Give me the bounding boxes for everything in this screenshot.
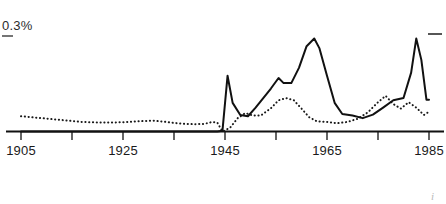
x-axis-label-1925: 1925 — [108, 143, 138, 158]
x-axis-label-1905: 1905 — [6, 143, 36, 158]
x-axis-ticks — [21, 132, 429, 140]
line-chart-plot — [0, 0, 446, 204]
x-axis-label-1985: 1985 — [414, 143, 444, 158]
series-solid-line — [21, 39, 429, 132]
x-axis-label-1945: 1945 — [210, 143, 240, 158]
chart-figure: 0.3% 1905 1925 1945 1965 1985 i — [0, 0, 446, 204]
x-axis-label-1965: 1965 — [312, 143, 342, 158]
corner-mark-glyph: i — [431, 190, 434, 202]
